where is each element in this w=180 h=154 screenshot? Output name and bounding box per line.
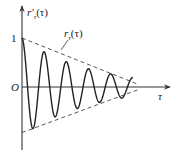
x-axis-label: τ xyxy=(158,90,163,102)
annotation-arg: (τ) xyxy=(71,27,83,40)
svg-text:r'τ(τ): r'τ(τ) xyxy=(27,6,48,21)
y-tick-label-1: 1 xyxy=(11,32,17,44)
y-axis-label: r'τ(τ) xyxy=(27,6,48,21)
svg-text:rτ(τ): rτ(τ) xyxy=(64,27,83,42)
y-axis-label-arg: (τ) xyxy=(36,6,48,19)
origin-label: O xyxy=(11,81,19,93)
series-line-damped-oscillation xyxy=(22,38,133,129)
annotation-leader-line xyxy=(61,40,68,50)
chart: 1 O r'τ(τ) rτ(τ) τ xyxy=(0,0,180,154)
envelope-annotation-label: rτ(τ) xyxy=(64,27,83,42)
